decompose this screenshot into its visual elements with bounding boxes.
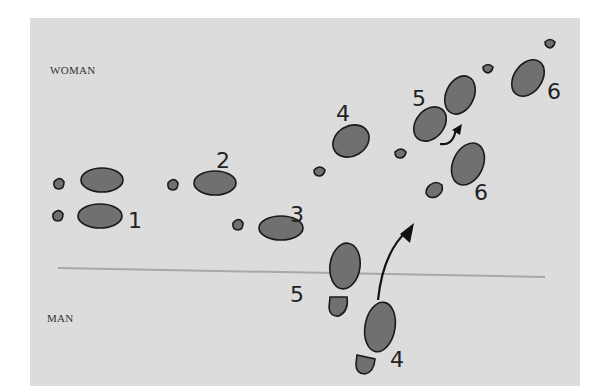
step-number-woman-6: 6 [547, 79, 561, 104]
movement-arrowhead-icon [400, 223, 414, 243]
footprint-woman-step-6 [483, 40, 555, 103]
step-number-man-4: 4 [390, 347, 404, 372]
step-number-3: 3 [290, 202, 304, 227]
footprint-step-1 [53, 204, 122, 228]
step-number-man-6: 6 [474, 180, 488, 205]
step-number-2: 2 [216, 148, 230, 173]
step-number-woman-5: 5 [412, 86, 426, 111]
footprint-diagram: WOMAN MAN 1 2 3 4 5 6 [0, 0, 594, 392]
movement-arrow [378, 230, 408, 300]
woman-label: WOMAN [50, 64, 96, 76]
step-number-1: 1 [128, 208, 142, 233]
pivot-arrowhead-icon [452, 124, 462, 135]
footprint-man-step-5 [327, 241, 363, 316]
step-number-woman-4: 4 [336, 101, 350, 126]
man-label: MAN [47, 312, 74, 324]
footprint-start-top [54, 168, 123, 192]
footprint-step-2 [168, 171, 236, 195]
step-number-man-5: 5 [290, 282, 304, 307]
divider-line [58, 268, 545, 277]
footprint-woman-step-4 [314, 119, 375, 176]
